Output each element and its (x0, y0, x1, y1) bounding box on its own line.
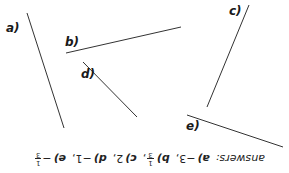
numerator: 1 (35, 159, 41, 167)
denominator: 3 (148, 152, 152, 159)
fraction: 1 3 (35, 152, 41, 167)
answer-key: e) (54, 153, 67, 166)
label-b: b) (65, 36, 79, 48)
label-c: c) (229, 5, 242, 17)
answer-value: −3 (179, 153, 195, 166)
answer-d: d) −1 , (68, 153, 107, 166)
answer-b: b) 1 3 , (139, 152, 170, 167)
line-c (207, 5, 249, 107)
line-diagram (0, 0, 289, 173)
answer-value: −1 (76, 153, 92, 166)
answer-e: e) − 1 3 (34, 152, 66, 167)
denominator: 3 (36, 152, 40, 159)
answer-key: b) (157, 153, 170, 166)
separator: , (72, 153, 76, 166)
numerator: 1 (147, 159, 153, 167)
answer-key: d) (94, 153, 107, 166)
fraction: 1 3 (147, 152, 153, 167)
answer-key: c) (125, 153, 137, 166)
answer-sign: − (42, 153, 51, 166)
line-b (66, 27, 181, 53)
label-e: e) (186, 120, 200, 132)
separator: , (113, 153, 117, 166)
line-e (187, 115, 283, 147)
separator: , (143, 153, 147, 166)
label-d: d) (81, 68, 95, 80)
line-a (27, 13, 64, 128)
answer-key: a) (197, 153, 209, 166)
answers-upside-down: answers: a) −3 , b) 1 3 , c) 2 , d) −1 ,… (30, 150, 265, 168)
answers-heading: answers: (216, 153, 265, 166)
answer-a: a) −3 , (172, 153, 210, 166)
separator: , (176, 153, 180, 166)
label-a: a) (6, 22, 20, 34)
answer-c: c) 2 , (109, 153, 137, 166)
answer-value: 2 (116, 153, 123, 166)
